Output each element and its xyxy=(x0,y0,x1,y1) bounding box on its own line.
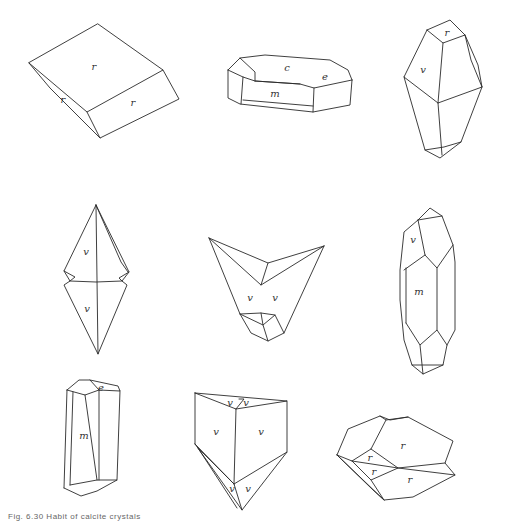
face-label: v xyxy=(410,235,416,245)
face-label: c xyxy=(284,63,290,73)
crystal-4-scalenohedron xyxy=(64,205,129,354)
face-label: e xyxy=(98,383,104,393)
crystal-3 xyxy=(404,20,482,158)
crystal-7-prism xyxy=(64,380,120,496)
face-label: v xyxy=(227,398,233,408)
face-label: v xyxy=(243,398,249,408)
face-label: r xyxy=(92,62,97,72)
crystal-drawings xyxy=(0,0,511,525)
face-label: r xyxy=(408,475,413,485)
face-label: v xyxy=(229,484,235,494)
face-label: r xyxy=(368,453,373,463)
crystal-6 xyxy=(400,208,455,374)
face-label: v xyxy=(83,247,89,257)
crystal-9 xyxy=(337,416,455,500)
crystal-1-rhombohedron xyxy=(29,24,179,138)
face-label: e xyxy=(322,72,328,82)
crystal-8 xyxy=(195,393,287,510)
face-label: v xyxy=(258,427,264,437)
face-label: r xyxy=(131,98,136,108)
face-label: v xyxy=(247,293,253,303)
face-label: v xyxy=(420,65,426,75)
face-label: v xyxy=(245,484,251,494)
face-label: m xyxy=(79,431,88,441)
face-label: v xyxy=(272,293,278,303)
figure-caption: Fig. 6.30 Habit of calcite crystals xyxy=(8,512,141,521)
face-label: r xyxy=(61,95,66,105)
face-label: v xyxy=(213,427,219,437)
face-label: m xyxy=(270,89,279,99)
face-label: v xyxy=(84,304,90,314)
face-label: r xyxy=(445,28,450,38)
face-label: r xyxy=(372,467,377,477)
crystal-5 xyxy=(209,238,324,341)
face-label: r xyxy=(401,441,406,451)
face-label: m xyxy=(414,287,423,297)
